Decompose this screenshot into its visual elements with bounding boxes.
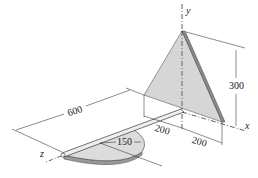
label-150: 150: [117, 136, 132, 147]
z-axis: [46, 156, 61, 162]
z-axis-label: z: [39, 148, 44, 159]
label-200-x: 200: [191, 134, 208, 149]
diagram-svg: y x z 600 150 200 200 300: [0, 0, 258, 178]
label-600: 600: [66, 103, 84, 118]
rod-end: [61, 153, 65, 157]
semicircle-disk: [63, 130, 145, 161]
label-300: 300: [229, 80, 244, 91]
triangle-plate: [144, 31, 222, 122]
x-axis-label: x: [244, 120, 250, 131]
y-axis-label: y: [185, 5, 191, 16]
diagram-canvas: y x z 600 150 200 200 300: [0, 0, 258, 178]
label-200-z: 200: [154, 122, 171, 137]
